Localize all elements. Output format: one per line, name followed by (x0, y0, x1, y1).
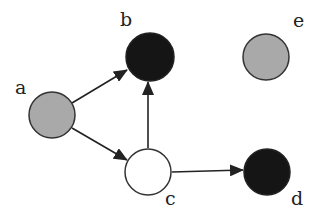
node-a (29, 92, 75, 138)
node-e (243, 34, 289, 80)
label-d: d (291, 187, 303, 209)
edge-a-b (72, 70, 127, 103)
label-a: a (15, 76, 26, 98)
label-e: e (293, 9, 304, 31)
graph-diagram: a b c d e (0, 0, 321, 217)
edge-a-c (72, 128, 127, 160)
edge-c-d (172, 170, 243, 172)
node-d (244, 149, 290, 195)
node-b (126, 33, 174, 81)
label-c: c (165, 187, 176, 209)
label-b: b (120, 8, 132, 30)
